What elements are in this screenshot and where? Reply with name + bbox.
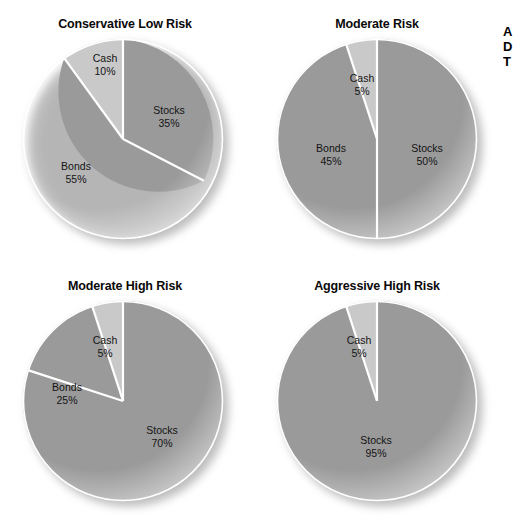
slice-label-bonds: Bonds 45% xyxy=(300,142,362,167)
pie-highlight xyxy=(277,39,477,239)
slice-label-cash: Cash 5% xyxy=(74,334,136,359)
chart-moderate-risk: Moderate Risk xyxy=(252,0,502,262)
chart-aggressive-high-risk: Aggressive High Risk xyxy=(252,262,502,524)
slice-label-stocks: Stocks 70% xyxy=(131,424,193,449)
slice-label-stocks: Stocks 35% xyxy=(138,104,200,129)
slice-label-cash: Cash 5% xyxy=(331,72,393,97)
slice-label-cash: Cash 5% xyxy=(328,334,390,359)
slice-label-stocks: Stocks 95% xyxy=(345,434,407,459)
slice-label-bonds: Bonds 55% xyxy=(45,160,107,185)
chart-moderate-high-risk: Moderate High Risk xyxy=(0,262,250,524)
slice-label-bonds: Bonds 25% xyxy=(36,381,98,406)
pie-graphic: Stocks 70% Bonds 25% Cash 5% xyxy=(22,300,228,506)
pie-graphic: Stocks 50% Bonds 45% Cash 5% xyxy=(276,38,482,244)
side-caption-clipped: A D T xyxy=(503,24,514,69)
pie-graphic: Stocks 35% Bonds 55% Cash 10% xyxy=(22,38,228,244)
chart-title: Moderate Risk xyxy=(252,17,502,31)
chart-conservative-low-risk: Conservative Low Risk xyxy=(0,0,250,262)
chart-title: Conservative Low Risk xyxy=(0,17,250,31)
pie-chart-grid: Conservative Low Risk xyxy=(0,0,514,525)
pie-highlight xyxy=(277,301,477,501)
slice-label-stocks: Stocks 50% xyxy=(396,142,458,167)
side-caption-line-1: A xyxy=(503,24,514,39)
pie-svg xyxy=(276,300,478,502)
slice-label-cash: Cash 10% xyxy=(74,52,136,77)
pie-svg xyxy=(276,38,478,240)
chart-title: Moderate High Risk xyxy=(0,279,250,293)
chart-title: Aggressive High Risk xyxy=(252,279,502,293)
pie-graphic: Stocks 95% Cash 5% xyxy=(276,300,482,506)
side-caption-line-2: D xyxy=(503,39,514,54)
side-caption-line-3: T xyxy=(503,54,514,69)
